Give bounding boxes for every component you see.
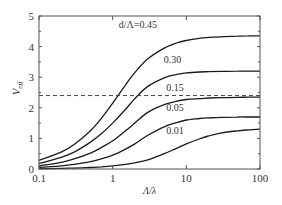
y-tick-label: 5 (29, 10, 35, 22)
x-tick-label: 1 (110, 172, 116, 184)
curve-label: 0.05 (166, 102, 184, 113)
x-tick-label: 100 (252, 172, 269, 184)
y-tick-label: 4 (29, 41, 35, 53)
y-tick-label: 2 (29, 102, 35, 114)
y-tick-label: 3 (29, 71, 35, 83)
curve-label: 0.15 (166, 82, 184, 93)
y-axis-label: Veff (10, 81, 24, 96)
curve-label: 0.01 (166, 125, 184, 136)
chart-container: 0123450.1110100 d/Λ=0.450.300.150.050.01… (0, 0, 282, 205)
curve-4 (39, 129, 260, 169)
curve-group (39, 36, 260, 169)
curve-labels: d/Λ=0.450.300.150.050.01 (119, 19, 184, 136)
x-axis-label: Λ/λ (142, 185, 157, 196)
y-tick-label: 1 (29, 132, 35, 144)
y-axis-label-sub: eff (16, 81, 24, 89)
curve-label: d/Λ=0.45 (119, 19, 157, 30)
x-tick-label: 0.1 (32, 172, 46, 184)
curve-label: 0.30 (164, 54, 182, 65)
line-chart: 0123450.1110100 d/Λ=0.450.300.150.050.01… (0, 0, 282, 205)
x-tick-label: 10 (181, 172, 193, 184)
